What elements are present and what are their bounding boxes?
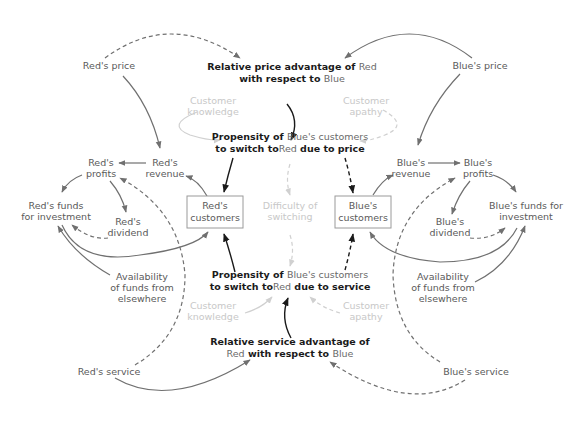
link-reds-price-to-revenue bbox=[123, 76, 160, 148]
link-blues-price-to-revenue bbox=[418, 74, 460, 145]
link-difficulty-down bbox=[290, 235, 293, 266]
node-reds-profits: Red'sprofits bbox=[86, 157, 116, 179]
labels: Red's price Blue's price Relative price … bbox=[21, 60, 563, 377]
node-customer-knowledge-bottom: Customerknowledge bbox=[187, 300, 239, 322]
node-customer-apathy-bottom: Customerapathy bbox=[343, 300, 389, 322]
node-blues-price: Blue's price bbox=[452, 60, 507, 71]
link-red-profits-to-funds bbox=[62, 175, 82, 192]
link-knowledge-bottom bbox=[245, 297, 272, 313]
link-prop-price-to-blue-cust bbox=[345, 158, 353, 193]
node-relative-service-advantage: Relative service advantage ofRed with re… bbox=[210, 336, 370, 359]
node-availability-right: Availabilityof funds fromelsewhere bbox=[411, 271, 475, 304]
link-blue-cust-to-revenue bbox=[373, 175, 393, 195]
node-reds-price: Red's price bbox=[83, 60, 135, 71]
node-blues-revenue: Blue'srevenue bbox=[392, 157, 431, 179]
node-customer-apathy-top: Customerapathy bbox=[343, 95, 389, 117]
link-difficulty-up bbox=[288, 164, 291, 195]
link-prop-price-to-red-cust bbox=[224, 158, 233, 192]
link-red-cust-to-revenue bbox=[186, 176, 207, 196]
link-reds-price-to-price-adv bbox=[105, 34, 240, 58]
node-blues-funds: Blue's funds forinvestment bbox=[489, 200, 563, 222]
node-blues-dividend: Blue'sdividend bbox=[430, 216, 471, 238]
node-propensity-service: Propensity of Blue's customersto switch … bbox=[210, 269, 371, 292]
node-propensity-price: Propensity of Blue's customersto switch … bbox=[212, 131, 368, 154]
link-apathy-bottom bbox=[310, 297, 340, 313]
node-customer-knowledge-top: Customerknowledge bbox=[187, 95, 239, 117]
node-reds-dividend: Red'sdividend bbox=[108, 216, 149, 238]
node-reds-service: Red's service bbox=[78, 366, 141, 377]
node-blues-service: Blue's service bbox=[443, 366, 509, 377]
node-reds-funds: Red's fundsfor investment bbox=[21, 200, 91, 222]
causal-loop-diagram: Red's price Blue's price Relative price … bbox=[0, 0, 582, 423]
link-blue-dividend-to-funds bbox=[470, 228, 505, 238]
link-blue-service-to-profits bbox=[393, 178, 455, 362]
link-blues-price-to-price-adv bbox=[345, 34, 472, 58]
link-blue-avail-to-funds bbox=[475, 226, 525, 282]
node-reds-revenue: Red'srevenue bbox=[146, 157, 185, 179]
link-service-adv-to-propensity bbox=[285, 298, 291, 338]
node-relative-price-advantage: Relative price advantage of Redwith resp… bbox=[207, 61, 376, 84]
link-prop-service-to-red-cust bbox=[224, 234, 235, 272]
link-blue-profits-to-funds bbox=[493, 175, 516, 192]
link-red-profits-to-dividend bbox=[110, 181, 126, 212]
node-availability-left: Availabilityof funds fromelsewhere bbox=[110, 271, 174, 304]
link-prop-service-to-blue-cust bbox=[345, 234, 353, 270]
node-blues-profits: Blue'sprofits bbox=[463, 157, 493, 179]
link-red-dividend-to-funds bbox=[72, 225, 108, 238]
node-difficulty-of-switching: Difficulty ofswitching bbox=[263, 200, 318, 222]
link-blue-profits-to-dividend bbox=[452, 181, 470, 214]
